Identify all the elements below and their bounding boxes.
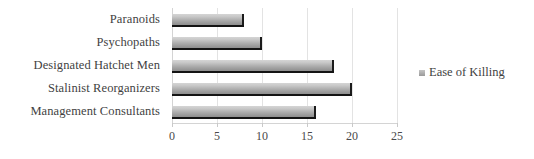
bar-chart: Paranoids Psychopaths Designated Hatchet… [0,0,534,159]
legend: Ease of Killing [419,66,505,79]
tick-mark-10 [262,123,263,127]
bar-row [172,82,397,95]
category-label-psychopaths: Psychopaths [96,36,166,49]
tick-mark-20 [352,123,353,127]
bar-row [172,105,397,118]
tick-label-15: 15 [301,129,313,143]
gridline-25 [397,8,398,123]
category-label-management-consultants: Management Consultants [30,105,166,118]
bar-paranoids [172,14,244,25]
tick-label-10: 10 [256,129,268,143]
tick-mark-0 [172,123,173,127]
category-label-paranoids: Paranoids [110,13,166,26]
category-axis: Paranoids Psychopaths Designated Hatchet… [0,8,166,123]
tick-label-0: 0 [169,129,175,143]
value-axis: 0510152025 [172,123,397,147]
bar-management-consultants [172,106,316,117]
bar-row [172,13,397,26]
bar-psychopaths [172,37,262,48]
category-label-designated-hatchet-men: Designated Hatchet Men [34,59,166,72]
tick-label-20: 20 [346,129,358,143]
bar-designated-hatchet-men [172,60,334,71]
category-label-stalinist-reorganizers: Stalinist Reorganizers [48,82,166,95]
tick-label-25: 25 [391,129,403,143]
bar-row [172,36,397,49]
tick-mark-5 [217,123,218,127]
bar-row [172,59,397,72]
tick-label-5: 5 [214,129,220,143]
plot-area [172,8,397,123]
bar-series-ease-of-killing [172,8,397,123]
tick-mark-25 [397,123,398,127]
legend-swatch-icon [419,70,425,76]
tick-mark-15 [307,123,308,127]
value-axis-line [172,123,397,124]
bar-stalinist-reorganizers [172,83,352,94]
legend-label-ease-of-killing: Ease of Killing [429,66,505,79]
